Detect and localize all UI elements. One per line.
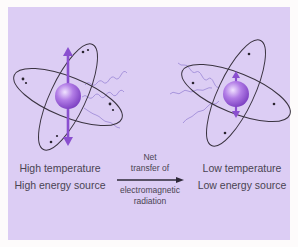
arrow-label-net: Net [110, 152, 190, 163]
left-subtitle: High energy source [14, 177, 106, 194]
arrow-caption-top: Net transfer of [110, 152, 190, 174]
arrow-label-electromagnetic: electromagnetic [105, 185, 195, 196]
left-nucleus-icon [55, 83, 81, 109]
transfer-arrow-icon [117, 177, 184, 183]
left-title: High temperature [14, 160, 106, 177]
left-caption: High temperature High energy source [14, 160, 106, 194]
right-subtitle: Low energy source [196, 177, 288, 194]
arrow-label-radiation: radiation [105, 196, 195, 207]
right-caption: Low temperature Low energy source [196, 160, 288, 194]
right-title: Low temperature [196, 160, 288, 177]
right-atom-icon [170, 33, 297, 153]
atoms-illustration [0, 0, 298, 247]
left-radiation-waves-icon [82, 71, 127, 128]
arrow-caption-bottom: electromagnetic radiation [105, 185, 195, 207]
left-atom-icon [7, 37, 130, 157]
arrow-label-transfer: transfer of [110, 163, 190, 174]
right-nucleus-icon [223, 81, 249, 107]
